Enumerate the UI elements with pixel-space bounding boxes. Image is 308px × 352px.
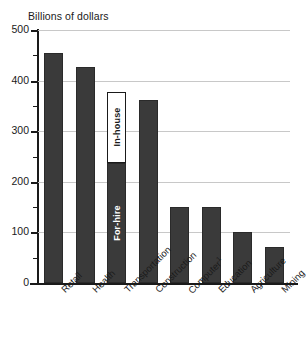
bar-chart-figure: Billions of dollars 0100200300400500 For… [0, 0, 308, 352]
bar-body [44, 53, 63, 283]
y-tick-major [31, 182, 38, 184]
y-tick-major [31, 81, 38, 83]
y-tick-major [31, 232, 38, 234]
y-axis-tick-label: 200 [0, 175, 29, 187]
bar-retail [44, 53, 63, 283]
bar-segment-for-hire: For-hire [107, 163, 126, 283]
bar-segment-label: For-hire [112, 205, 122, 241]
y-tick-major [31, 30, 38, 32]
bar-transportation: For-hireIn-house [107, 92, 126, 283]
bar-segment-in-house: In-house [107, 92, 126, 163]
y-tick-major [31, 283, 38, 285]
y-axis-tick-label: 400 [0, 74, 29, 86]
y-tick-major [31, 131, 38, 133]
bar-body [76, 67, 95, 283]
bar-health [76, 67, 95, 283]
y-axis-tick-label: 300 [0, 124, 29, 136]
y-axis-tick-label: 100 [0, 225, 29, 237]
chart-title: Billions of dollars [28, 10, 109, 22]
y-axis-tick-label: 0 [0, 276, 29, 288]
bar-segment-label: In-house [112, 108, 122, 147]
y-axis-tick-label: 500 [0, 23, 29, 35]
